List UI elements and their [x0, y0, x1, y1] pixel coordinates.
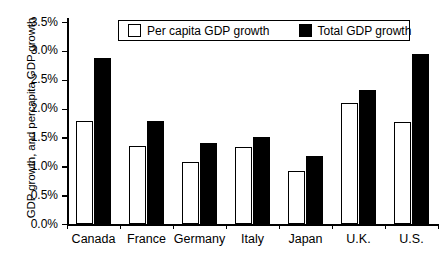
- y-axis-tick: 1.5%: [62, 137, 67, 138]
- y-axis-tick-label: 1.5%: [31, 130, 58, 144]
- y-axis-tick-label: 1.0%: [31, 159, 58, 173]
- bar-germany-per-capita: [182, 162, 199, 224]
- legend-label-total: Total GDP growth: [318, 24, 412, 38]
- y-axis-tick: 0.5%: [62, 195, 67, 196]
- x-axis-label-uk: U.K.: [346, 232, 370, 246]
- legend-label-per-capita: Per capita GDP growth: [147, 24, 270, 38]
- x-axis-label-italy: Italy: [241, 232, 264, 246]
- x-axis-tick: [67, 224, 68, 229]
- x-axis-tick: [438, 224, 439, 229]
- bar-japan-total: [306, 156, 323, 224]
- gdp-growth-bar-chart: GDP growth, and percapita GDP growth 0.0…: [0, 0, 443, 272]
- y-axis-tick: 3.5%: [62, 22, 67, 23]
- x-axis-line: [67, 224, 438, 226]
- x-axis-tick: [173, 224, 174, 229]
- y-axis-tick-label: 3.0%: [31, 43, 58, 57]
- chart-legend: Per capita GDP growth Total GDP growth: [118, 20, 410, 41]
- x-axis-tick: [332, 224, 333, 229]
- bar-canada-per-capita: [76, 121, 93, 224]
- y-axis-tick: 2.5%: [62, 80, 67, 81]
- legend-item-per-capita-gdp-growth: Per capita GDP growth: [128, 21, 270, 40]
- x-axis-label-france: France: [127, 232, 166, 246]
- x-axis-label-germany: Germany: [174, 232, 225, 246]
- bar-france-per-capita: [129, 146, 146, 224]
- y-axis-tick: 2.0%: [62, 109, 67, 110]
- bar-japan-per-capita: [288, 171, 305, 224]
- bar-canada-total: [94, 58, 111, 224]
- plot-area: 0.0%0.5%1.0%1.5%2.0%2.5%3.0%3.5%: [67, 18, 438, 225]
- x-axis-tick: [226, 224, 227, 229]
- bar-italy-per-capita: [235, 147, 252, 224]
- x-axis-label-us: U.S.: [399, 232, 423, 246]
- x-axis-tick: [279, 224, 280, 229]
- y-axis-tick-label: 3.5%: [31, 15, 58, 29]
- y-axis-tick: 1.0%: [62, 166, 67, 167]
- legend-swatch-icon-total: [299, 24, 312, 37]
- y-axis-tick: 3.0%: [62, 51, 67, 52]
- bar-italy-total: [253, 137, 270, 224]
- x-axis-label-canada: Canada: [72, 232, 116, 246]
- x-axis-tick: [385, 224, 386, 229]
- bar-us-total: [412, 54, 429, 224]
- bar-us-per-capita: [394, 122, 411, 224]
- x-axis-tick: [120, 224, 121, 229]
- y-axis-line: [67, 18, 69, 225]
- bar-uk-total: [359, 90, 376, 224]
- y-axis-tick-label: 0.5%: [31, 188, 58, 202]
- bar-france-total: [147, 121, 164, 224]
- legend-swatch-icon-per-capita: [128, 24, 141, 37]
- y-axis-tick-label: 2.5%: [31, 72, 58, 86]
- bar-uk-per-capita: [341, 103, 358, 224]
- bar-germany-total: [200, 143, 217, 224]
- y-axis-tick-label: 0.0%: [31, 217, 58, 231]
- x-axis-label-japan: Japan: [288, 232, 322, 246]
- legend-item-total-gdp-growth: Total GDP growth: [299, 21, 412, 40]
- y-axis-tick-label: 2.0%: [31, 101, 58, 115]
